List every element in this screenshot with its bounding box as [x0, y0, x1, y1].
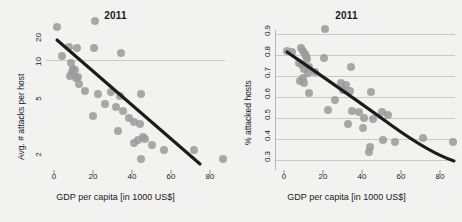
- x-tick-label-left-0: 0: [44, 172, 64, 181]
- scatter-points-left: [53, 17, 227, 163]
- x-tick-label-left-80: 80: [200, 172, 220, 181]
- x-tick-label-right-60: 60: [391, 172, 411, 181]
- figure-container: 2011 Avg. # attacks per host 20 10 5 2: [0, 0, 462, 222]
- x-tick-label-left-20: 20: [83, 172, 103, 181]
- x-tick-label-right-80: 80: [430, 172, 450, 181]
- plot-area-right: [231, 0, 462, 222]
- x-tick-label-right-20: 20: [313, 172, 333, 181]
- scatter-points-right: [283, 25, 457, 156]
- x-tick-label-right-0: 0: [274, 172, 294, 181]
- chart-panel-left: 2011 Avg. # attacks per host 20 10 5 2: [0, 0, 231, 222]
- x-axis-label-right: GDP per capita [in 1000 US$]: [231, 192, 462, 202]
- x-tick-label-right-40: 40: [352, 172, 372, 181]
- x-tick-label-left-40: 40: [122, 172, 142, 181]
- trend-line-left: [57, 40, 200, 164]
- x-tick-label-left-60: 60: [161, 172, 181, 181]
- chart-panel-right: 2011 % attacked hosts 0.9 0.8 0.7 0.6 0.…: [231, 0, 462, 222]
- x-axis-label-left: GDP per capita [in 1000 US$]: [0, 192, 231, 202]
- plot-area-left: [0, 0, 231, 222]
